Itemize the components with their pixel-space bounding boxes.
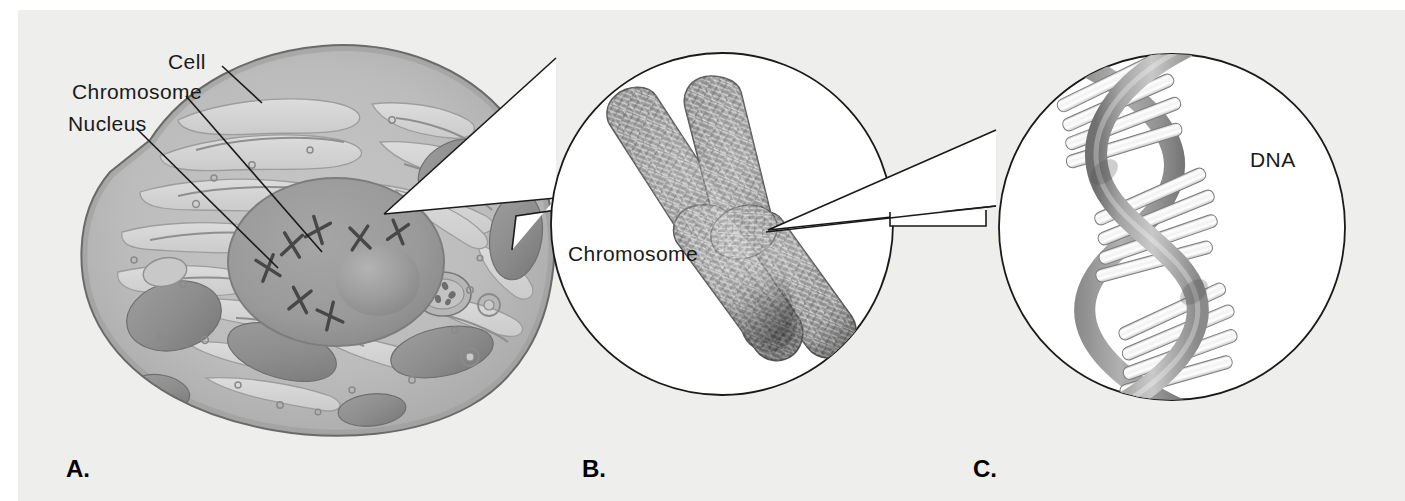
label-nucleus: Nucleus [68, 112, 147, 136]
figure-cell-chromosome-dna: Cell Chromosome Nucleus Chromosome DNA A… [0, 0, 1405, 501]
panel-letter-b: B. [582, 455, 606, 483]
diagram-canvas [0, 0, 1405, 501]
panel-letter-c: C. [973, 455, 997, 483]
panel-letter-a: A. [66, 455, 90, 483]
label-chromosome: Chromosome [72, 80, 202, 104]
label-dna: DNA [1250, 148, 1296, 172]
label-chromosome-panel-b: Chromosome [568, 242, 698, 266]
panel-c-dna [999, 48, 1345, 418]
label-cell: Cell [168, 50, 206, 74]
